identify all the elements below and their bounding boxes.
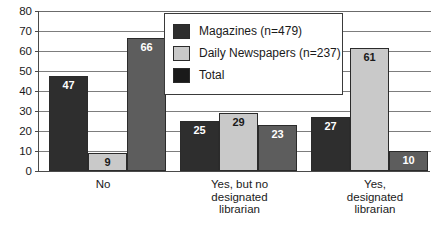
x-category-line: Yes, but no	[172, 178, 307, 191]
bar-magazines-yes-no-librarian: 25	[180, 121, 219, 171]
x-category-line: designated	[310, 191, 440, 204]
chart-legend: Magazines (n=479) Daily Newspapers (n=23…	[164, 13, 343, 95]
bar-total-no: 66	[127, 38, 166, 171]
bar-value: 23	[259, 128, 296, 140]
x-category-label-no: No	[48, 178, 158, 191]
y-tickmark	[35, 91, 39, 92]
bar-value: 61	[351, 51, 388, 63]
y-tick-label: 70	[6, 26, 32, 37]
y-tick-label: 80	[6, 6, 32, 17]
x-category-label-yes-no-librarian: Yes, but no designated librarian	[172, 178, 307, 216]
bar-value: 47	[50, 79, 87, 91]
y-tick-label: 50	[6, 66, 32, 77]
y-tick-label: 10	[6, 146, 32, 157]
y-tick-label: 30	[6, 106, 32, 117]
y-tickmark	[35, 151, 39, 152]
bar-value: 25	[181, 124, 218, 136]
legend-item-magazines: Magazines (n=479)	[173, 20, 335, 42]
bar-magazines-yes-librarian: 27	[311, 117, 350, 171]
y-tick-label: 0	[6, 166, 32, 177]
bar-total-yes-librarian: 10	[389, 151, 428, 171]
legend-label: Daily Newspapers (n=237)	[199, 47, 341, 60]
bar-magazines-no: 47	[49, 76, 88, 171]
bar-value: 66	[128, 41, 165, 53]
y-tickmark	[35, 131, 39, 132]
y-tickmark	[35, 71, 39, 72]
y-tickmark	[35, 11, 39, 12]
legend-swatch-icon	[173, 24, 190, 39]
legend-label: Magazines (n=479)	[199, 25, 302, 38]
legend-item-total: Total	[173, 64, 335, 86]
y-tickmark	[35, 171, 39, 172]
bar-value: 27	[312, 120, 349, 132]
x-category-line: Yes,	[310, 178, 440, 191]
bar-newspapers-yes-no-librarian: 29	[219, 113, 258, 171]
bar-value: 10	[390, 154, 427, 166]
bar-value: 29	[220, 116, 257, 128]
x-category-label-yes-librarian: Yes, designated librarian	[310, 178, 440, 216]
gridline	[39, 11, 431, 12]
x-category-line: librarian	[310, 203, 440, 216]
bar-newspapers-no: 9	[88, 153, 127, 171]
legend-item-newspapers: Daily Newspapers (n=237)	[173, 42, 335, 64]
y-tick-label: 40	[6, 86, 32, 97]
legend-swatch-icon	[173, 68, 190, 83]
y-tickmark	[35, 31, 39, 32]
y-tickmark	[35, 111, 39, 112]
bar-newspapers-yes-librarian: 61	[350, 48, 389, 171]
legend-swatch-icon	[173, 46, 190, 61]
y-tick-label: 20	[6, 126, 32, 137]
bar-total-yes-no-librarian: 23	[258, 125, 297, 171]
x-category-line: designated	[172, 191, 307, 204]
bar-chart: 80 70 60 50 40 30 20 10 0 47 9	[0, 0, 447, 234]
legend-label: Total	[199, 69, 224, 82]
x-category-line: No	[48, 178, 158, 191]
x-category-line: librarian	[172, 203, 307, 216]
bar-value: 9	[89, 156, 126, 168]
y-tick-label: 60	[6, 46, 32, 57]
y-tickmark	[35, 51, 39, 52]
